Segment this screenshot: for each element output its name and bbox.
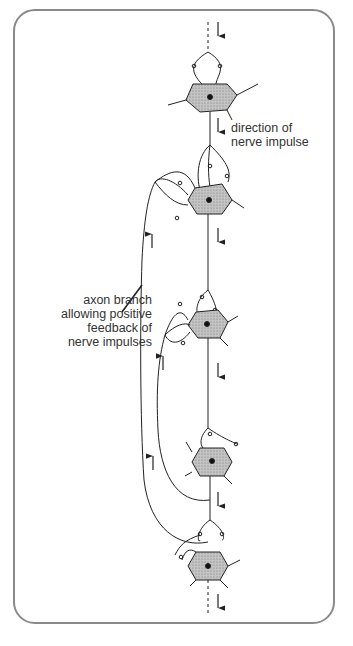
direction-label-line: direction of [231,121,309,135]
neuron-2 [155,145,244,290]
direction-label-line: nerve impulse [231,135,309,149]
direction-label: direction of nerve impulse [231,121,309,149]
axon-label-line: allowing positive [34,307,152,321]
axon-branch-label: axon branch allowing positive feedback o… [34,293,152,349]
outer-feedback-axon [141,182,208,543]
axon-label-line: axon branch [34,293,152,307]
neuron-5 [175,520,240,615]
axon-label-line: nerve impulses [34,335,152,349]
axon-label-line: feedback of [34,321,152,335]
neuron-4 [185,428,238,520]
neuron-3 [165,290,238,428]
